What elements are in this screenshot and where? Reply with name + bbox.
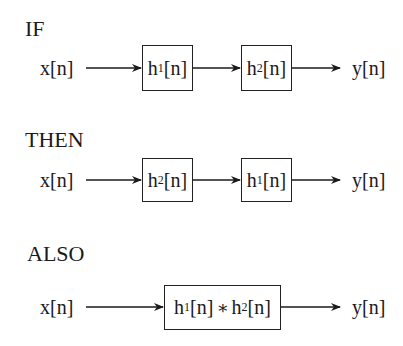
input-label: x[n] [40, 297, 73, 317]
input-label: x[n] [40, 170, 73, 190]
block-arg: [n] [164, 57, 187, 80]
heading-also: ALSO [27, 243, 84, 265]
block-base: h [148, 57, 158, 80]
output-label: y[n] [352, 297, 385, 317]
block-arg: [n] [164, 169, 187, 192]
block-h2: h2[n] [142, 158, 193, 202]
block-convolution: h1[n]∗h2[n] [164, 285, 281, 330]
heading-if: IF [25, 18, 45, 40]
block-h1: h1[n] [142, 45, 193, 91]
block-base: h [174, 296, 184, 319]
heading-then: THEN [25, 129, 84, 151]
output-label: y[n] [352, 58, 385, 78]
output-label: y[n] [352, 170, 385, 190]
block-base: h [247, 57, 257, 80]
block-base2: h [232, 296, 242, 319]
block-arg: [n] [263, 57, 286, 80]
convolution-operator-icon: ∗ [216, 297, 228, 319]
block-arg: [n] [190, 296, 213, 319]
block-h1: h1[n] [241, 158, 292, 202]
block-arg: [n] [263, 169, 286, 192]
block-base: h [148, 169, 158, 192]
block-arg2: [n] [248, 296, 271, 319]
block-base: h [247, 169, 257, 192]
block-h2: h2[n] [241, 45, 292, 91]
input-label: x[n] [40, 58, 73, 78]
